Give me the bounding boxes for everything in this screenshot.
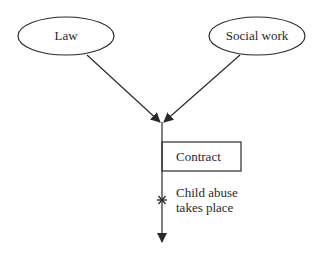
contract-node-label: Contract xyxy=(176,149,221,164)
child-abuse-event-label: Child abuse takes place xyxy=(176,185,238,215)
social-work-to-junction-arrow xyxy=(164,55,240,122)
social-work-node-label: Social work xyxy=(214,28,300,43)
event-label-line-1: Child abuse xyxy=(176,185,238,200)
law-node-label: Law xyxy=(49,28,83,43)
event-label-line-2: takes place xyxy=(176,200,238,215)
law-to-junction-arrow xyxy=(87,55,160,122)
